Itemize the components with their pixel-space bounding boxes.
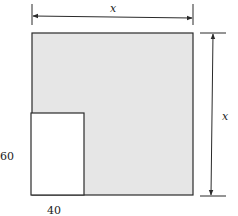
cutout-height-label: 60 [0,150,14,163]
right-dimension-label: x [222,110,229,123]
top-dimension-line [33,16,192,18]
cutout-rectangle [31,113,84,195]
top-dimension-label: x [110,2,117,15]
cutout-width-label: 40 [47,204,61,216]
right-dimension-line [211,34,213,195]
geometry-diagram: x x 60 40 [0,0,238,216]
